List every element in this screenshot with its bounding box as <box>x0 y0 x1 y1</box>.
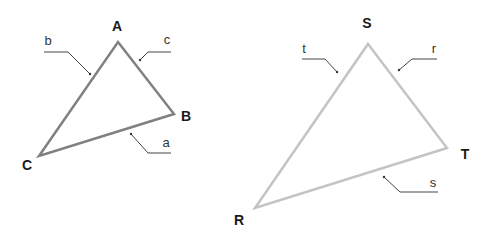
vertex-label-c: C <box>22 157 32 173</box>
side-label-t: t <box>302 41 306 56</box>
side-label-c: c <box>164 32 171 47</box>
leader-dot-c <box>139 59 141 61</box>
side-label-a: a <box>162 135 170 150</box>
vertex-label-b: B <box>181 108 191 124</box>
vertex-label-s: S <box>362 15 371 31</box>
triangle-abc-shape <box>39 42 174 156</box>
leader-line-r <box>399 59 437 70</box>
side-label-s: s <box>430 175 437 190</box>
side-label-b: b <box>44 33 51 48</box>
triangle-rst: S T R t r s <box>234 15 470 228</box>
vertex-label-t: T <box>461 146 470 162</box>
leader-dot-t <box>336 71 338 73</box>
vertex-label-a: A <box>112 18 122 34</box>
leader-dot-b <box>89 73 91 75</box>
triangle-rst-shape <box>255 44 447 208</box>
leader-dot-r <box>398 69 400 71</box>
leader-dot-s <box>383 176 385 178</box>
side-label-r: r <box>432 41 437 56</box>
triangle-abc: A B C b c a <box>22 18 191 173</box>
leader-line-t <box>302 59 337 72</box>
leader-line-c <box>140 52 171 60</box>
triangles-diagram: A B C b c a S T R t r s <box>0 0 494 239</box>
leader-line-b <box>44 52 90 74</box>
vertex-label-r: R <box>234 212 244 228</box>
leader-dot-a <box>130 133 132 135</box>
